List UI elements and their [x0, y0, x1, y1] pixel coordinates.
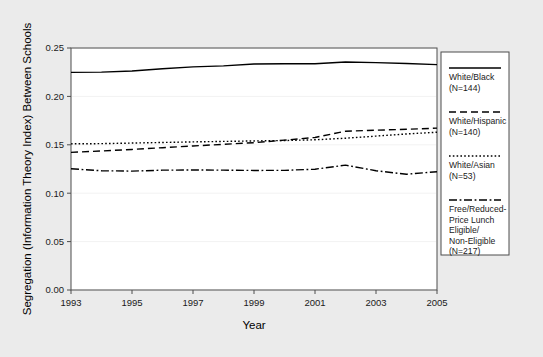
legend-label: (N=140): [449, 127, 480, 137]
plot-area-background: [71, 48, 437, 290]
legend-label: Non-Eligible: [449, 236, 496, 246]
y-tick-label: 0.15: [46, 139, 65, 150]
x-tick-label: 1999: [243, 297, 264, 308]
y-tick-label: 0.00: [46, 284, 65, 295]
segregation-line-chart: 0.000.050.100.150.200.25 199319951997199…: [0, 0, 543, 357]
legend-label: White/Hispanic: [449, 116, 507, 126]
y-tick-label: 0.10: [46, 188, 65, 199]
y-tick-label: 0.20: [46, 91, 65, 102]
x-tick-label: 2005: [426, 297, 447, 308]
x-axis-title: Year: [242, 319, 265, 331]
legend-label: Eligible/: [449, 225, 480, 235]
legend-label: (N=53): [449, 171, 476, 181]
y-tick-label: 0.25: [46, 42, 65, 53]
legend: White/Black(N=144)White/Hispanic(N=140)W…: [441, 52, 509, 256]
y-tick-label: 0.05: [46, 236, 65, 247]
chart-figure: 0.000.050.100.150.200.25 199319951997199…: [0, 0, 543, 357]
legend-label: White/Asian: [449, 160, 495, 170]
x-tick-label: 1993: [60, 297, 81, 308]
x-tick-label: 2003: [365, 297, 386, 308]
legend-label: Price Lunch: [449, 215, 495, 225]
x-tick-label: 1995: [121, 297, 142, 308]
x-tick-label: 1997: [182, 297, 203, 308]
y-axis-title: Segregation (Information Theory Index) B…: [21, 22, 33, 315]
legend-label: (N=217): [449, 246, 480, 256]
x-tick-label: 2001: [304, 297, 325, 308]
legend-label: (N=144): [449, 83, 480, 93]
legend-label: Free/Reduced-: [449, 204, 506, 214]
legend-label: White/Black: [449, 72, 495, 82]
